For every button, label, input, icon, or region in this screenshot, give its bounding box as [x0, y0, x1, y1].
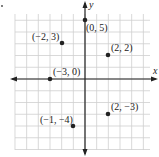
x-axis-right-arrow-icon	[151, 77, 158, 82]
x-axis-left-arrow-icon	[10, 77, 17, 82]
point-neg2-3: (−2, 3)	[32, 31, 64, 45]
x-axis-label: x	[152, 65, 158, 76]
point-label: (2, −3)	[111, 101, 138, 113]
axes: x y	[10, 0, 158, 156]
point-label: (−3, 0)	[53, 66, 80, 78]
y-axis-up-arrow-icon	[83, 1, 88, 8]
y-axis-down-arrow-icon	[83, 149, 88, 156]
point-label: (2, 2)	[111, 42, 133, 54]
coordinate-plane: x y (0, 5) (−2, 3) (2, 2) (−3, 0) (2, −3…	[0, 0, 159, 157]
y-axis-label: y	[88, 0, 94, 10]
point-label: (−1, −4)	[40, 114, 73, 126]
point-2-2: (2, 2)	[106, 42, 133, 57]
point-label: (0, 5)	[86, 22, 108, 34]
corner-mark	[1, 5, 3, 7]
point-label: (−2, 3)	[32, 31, 59, 43]
